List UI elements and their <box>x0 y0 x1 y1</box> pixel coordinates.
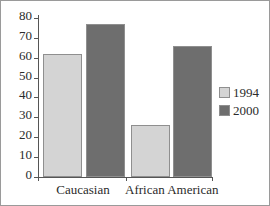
x-axis-label-african-american: African American <box>125 182 215 197</box>
y-tick-label: 20 <box>19 128 32 141</box>
bar-african-american-2000[interactable] <box>173 46 212 177</box>
plot-area <box>39 18 211 177</box>
y-tick-label: 40 <box>19 88 32 101</box>
bar-caucasian-1994[interactable] <box>43 54 82 177</box>
y-tick-label: 10 <box>19 148 32 161</box>
x-tick-mark-middle <box>126 177 127 181</box>
legend: 1994 2000 <box>219 85 259 121</box>
legend-swatch-icon-2000 <box>219 105 230 116</box>
legend-item-1994[interactable]: 1994 <box>219 85 259 100</box>
y-tick-label: 50 <box>19 69 32 82</box>
x-axis-label-caucasian: Caucasian <box>39 182 127 197</box>
bar-chart-figure: 80 70 60 50 40 30 20 10 <box>0 0 270 206</box>
bar-caucasian-2000[interactable] <box>86 24 125 177</box>
legend-label-1994: 1994 <box>233 86 259 99</box>
x-tick-mark-end <box>212 177 213 181</box>
y-tick-label: 70 <box>19 29 32 42</box>
y-tick-label: 30 <box>19 108 32 121</box>
y-tick-label: 60 <box>19 49 32 62</box>
legend-label-2000: 2000 <box>233 104 259 117</box>
bar-african-american-1994[interactable] <box>131 125 170 177</box>
legend-swatch-icon-1994 <box>219 87 230 98</box>
y-tick-label: 0 <box>26 168 33 181</box>
y-tick-label: 80 <box>19 9 32 22</box>
legend-item-2000[interactable]: 2000 <box>219 103 259 118</box>
x-tick-mark-start <box>38 177 39 181</box>
